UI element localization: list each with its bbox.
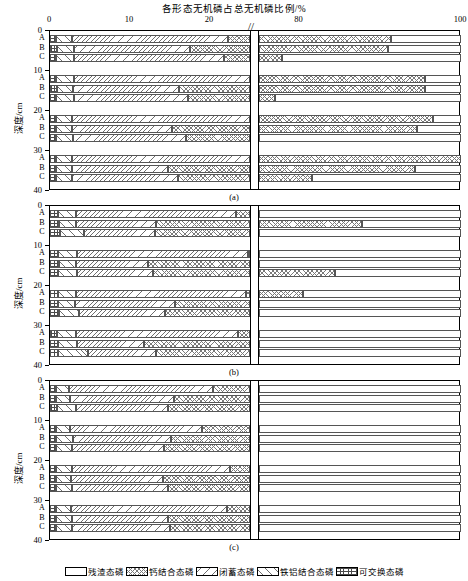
bar-segment-exchangeable (50, 404, 57, 412)
table-row[interactable] (50, 45, 461, 53)
legend-item[interactable]: 闭蓄态磷 (196, 565, 255, 577)
table-row[interactable] (50, 300, 461, 308)
table-row[interactable] (50, 165, 461, 173)
table-row[interactable] (50, 210, 461, 218)
bar-row-label: A (37, 73, 47, 82)
legend-item[interactable]: 钙结合态磷 (126, 565, 194, 577)
bar-row-label: B (37, 163, 47, 172)
table-row[interactable] (50, 505, 461, 513)
bar-segment-occluded (69, 385, 213, 393)
plot-area (49, 380, 460, 540)
plot-area (49, 205, 460, 365)
bar-segment-residual (259, 465, 461, 473)
x-tick-label: 20 (205, 14, 214, 24)
bar-segment-fe-al-bound (60, 229, 84, 237)
bar-row-label: C (37, 227, 47, 236)
table-row[interactable] (50, 125, 461, 133)
bar-segment-residual (259, 134, 461, 142)
table-row[interactable] (50, 75, 461, 83)
bar-segment-ca-bound (259, 220, 362, 228)
bar-segment-exchangeable (50, 340, 58, 348)
table-row[interactable] (50, 220, 461, 228)
bar-segment-exchangeable (50, 85, 57, 93)
bar-segment-occluded (72, 115, 250, 123)
table-row[interactable] (50, 404, 461, 412)
bar-row-label: A (37, 153, 47, 162)
bar-segment-residual (312, 174, 461, 182)
bar-segment-ca-bound (202, 425, 250, 433)
bar-segment-occluded (72, 524, 170, 532)
bar-row-label: A (37, 383, 47, 392)
bar-segment-occluded (76, 260, 148, 268)
table-row[interactable] (50, 395, 461, 403)
table-row[interactable] (50, 349, 461, 357)
bar-segment-ca-bound (188, 94, 250, 102)
table-row[interactable] (50, 385, 461, 393)
table-row[interactable] (50, 524, 461, 532)
bar-segment-fe-al-bound (56, 75, 74, 83)
bar-segment-fe-al-bound (56, 134, 73, 142)
table-row[interactable] (50, 85, 461, 93)
bar-segment-occluded (72, 35, 228, 43)
bar-segment-ca-bound (259, 174, 312, 182)
bar-segment-occluded (73, 85, 179, 93)
x-tick-label: 0 (47, 14, 51, 24)
bar-segment-ca-bound (224, 54, 250, 62)
table-row[interactable] (50, 115, 461, 123)
bar-segment-residual (425, 75, 461, 83)
y-tick-mark (45, 110, 49, 111)
table-row[interactable] (50, 484, 461, 492)
table-row[interactable] (50, 465, 461, 473)
table-row[interactable] (50, 290, 461, 298)
bar-segment-fe-al-bound (59, 220, 77, 228)
bar-segment-occluded (73, 435, 171, 443)
table-row[interactable] (50, 425, 461, 433)
bar-segment-fe-al-bound (59, 260, 77, 268)
bar-segment-exchangeable (50, 45, 57, 53)
table-row[interactable] (50, 309, 461, 317)
bar-row-label: C (37, 132, 47, 141)
bar-segment-occluded (88, 349, 155, 357)
table-row[interactable] (50, 229, 461, 237)
bar-segment-occluded (74, 54, 224, 62)
y-tick-mark (45, 460, 49, 461)
table-row[interactable] (50, 134, 461, 142)
y-tick-mark (45, 365, 49, 366)
table-row[interactable] (50, 35, 461, 43)
table-row[interactable] (50, 330, 461, 338)
bar-segment-residual (259, 229, 461, 237)
table-row[interactable] (50, 444, 461, 452)
legend-swatch-fe-al-bound (257, 567, 279, 576)
bar-segment-ca-bound (228, 35, 250, 43)
table-row[interactable] (50, 155, 461, 163)
bar-row-label: B (37, 433, 47, 442)
chart-figure: 各形态无机磷占总无机磷比例/% 0102080100// 残渣态磷钙结合态磷闭蓄… (0, 0, 468, 581)
legend-item[interactable]: 残渣态磷 (65, 565, 124, 577)
legend-swatch-residual (65, 567, 87, 576)
bar-segment-exchangeable (50, 260, 59, 268)
bar-segment-ca-bound (168, 404, 250, 412)
table-row[interactable] (50, 250, 461, 258)
bar-row-label: A (37, 33, 47, 42)
bar-segment-ca-bound (144, 340, 250, 348)
bar-segment-residual (259, 250, 461, 258)
legend-item[interactable]: 可交换态磷 (336, 565, 404, 577)
legend-item[interactable]: 铁铝结合态磷 (257, 565, 334, 577)
bar-segment-fe-al-bound (57, 404, 76, 412)
table-row[interactable] (50, 269, 461, 277)
bar-segment-occluded (72, 515, 168, 523)
bar-segment-occluded (74, 94, 188, 102)
bar-segment-occluded (76, 404, 168, 412)
legend-swatch-ca-bound (126, 567, 148, 576)
table-row[interactable] (50, 515, 461, 523)
bar-segment-fe-al-bound (57, 330, 75, 338)
table-row[interactable] (50, 260, 461, 268)
table-row[interactable] (50, 475, 461, 483)
table-row[interactable] (50, 435, 461, 443)
table-row[interactable] (50, 340, 461, 348)
table-row[interactable] (50, 174, 461, 182)
table-row[interactable] (50, 94, 461, 102)
bar-segment-residual (259, 404, 461, 412)
table-row[interactable] (50, 54, 461, 62)
bar-segment-fe-al-bound (58, 210, 76, 218)
